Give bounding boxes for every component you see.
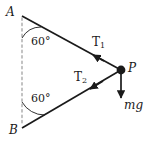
physics-diagram-figure: A B P T1 T2 mg 60° 60° [0, 0, 148, 144]
angle-label-a: 60° [31, 36, 51, 47]
tension-1-subscript: 1 [100, 41, 105, 50]
tension-1-label: T1 [92, 36, 105, 50]
tension-1-arrow [93, 55, 104, 61]
angle-label-b: 60° [31, 93, 51, 104]
tension-2-arrow [90, 81, 103, 89]
vertex-label-b: B [9, 124, 18, 136]
tension-2-label: T2 [74, 71, 87, 85]
tension-1-symbol: T [92, 35, 100, 49]
point-mass-p-dot [117, 66, 126, 75]
point-label-p: P [128, 62, 136, 74]
weight-label: mg [124, 99, 143, 111]
tension-2-subscript: 2 [82, 76, 87, 85]
tension-2-symbol: T [74, 70, 82, 84]
vertex-label-a: A [6, 6, 15, 18]
